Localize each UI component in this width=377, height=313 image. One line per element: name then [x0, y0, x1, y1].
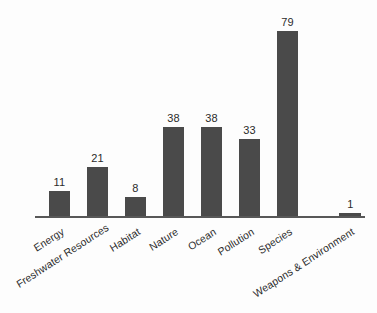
bar-freshwater-resources	[87, 167, 108, 216]
x-axis-line	[35, 216, 365, 218]
bar-value-habitat: 8	[120, 182, 151, 194]
bar-value-weapons-environment: 1	[335, 198, 366, 210]
bar-chart: 11 21 8 38 38 33 79 1 Energy Freshwater …	[0, 0, 377, 313]
bar-value-freshwater-resources: 21	[82, 152, 113, 164]
bar-ocean	[201, 127, 222, 216]
bar-value-species: 79	[272, 16, 303, 28]
bar-value-ocean: 38	[196, 112, 227, 124]
bar-value-energy: 11	[44, 176, 75, 188]
bar-nature	[163, 127, 184, 216]
bar-energy	[49, 191, 70, 216]
bar-species	[277, 31, 298, 216]
x-tick-label-weapons-environment: Weapons & Environment	[249, 225, 356, 301]
bar-habitat	[125, 197, 146, 216]
bar-value-pollution: 33	[234, 124, 265, 136]
bar-value-nature: 38	[158, 112, 189, 124]
plot-area: 11 21 8 38 38 33 79 1 Energy Freshwater …	[0, 0, 377, 313]
bar-pollution	[239, 139, 260, 216]
